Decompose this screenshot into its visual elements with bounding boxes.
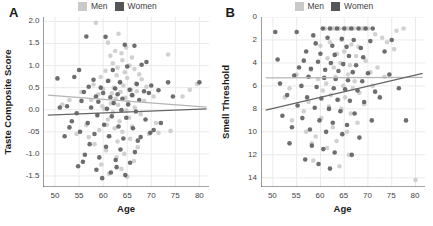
x-tick-label: 70 [355, 192, 379, 200]
panel-a-y-axis-title: Taste Composite Score [3, 50, 13, 155]
x-tick-label: 50 [260, 192, 284, 200]
legend-swatch-men [78, 2, 87, 11]
y-tick-label: -1.0 [26, 150, 40, 158]
x-tick-label: 80 [187, 192, 211, 200]
y-tick-label: 0.0 [28, 106, 39, 114]
y-tick-label: 6 [253, 82, 257, 90]
x-tick-label: 80 [403, 192, 427, 200]
panel-b: B Men Women Smell Threshold Age 02468101… [217, 0, 433, 226]
y-tick-label: -1.5 [26, 172, 40, 180]
x-tick-label: 50 [43, 192, 67, 200]
panel-b-x-axis-title: Age [261, 204, 425, 214]
x-tick-label: 65 [115, 192, 139, 200]
y-tick-label: 0 [253, 13, 257, 21]
x-tick-label: 55 [284, 192, 308, 200]
legend-label-men: Men [91, 2, 108, 11]
panel-a-plot-area [43, 17, 209, 187]
y-tick-label: 4 [253, 59, 257, 67]
x-tick-label: 75 [379, 192, 403, 200]
legend-panel-b: Men Women [295, 2, 374, 11]
legend-label-women: Women [344, 2, 373, 11]
panel-a-x-axis-title: Age [43, 204, 209, 214]
legend-item-women[interactable]: Women [115, 2, 157, 11]
panel-b-y-axis-title: Smell Threshold [220, 65, 230, 139]
legend-label-men: Men [308, 2, 325, 11]
y-tick-label: 10 [248, 128, 257, 136]
y-tick-label: 1.5 [28, 39, 39, 47]
legend-item-men[interactable]: Men [295, 2, 325, 11]
figure-container: A Men Women Taste Composite Score Age 2.… [0, 0, 433, 226]
y-tick-label: 8 [253, 105, 257, 113]
legend-panel-a: Men Women [78, 2, 157, 11]
x-tick-label: 70 [139, 192, 163, 200]
y-tick-label: 1.0 [28, 62, 39, 70]
legend-swatch-women [331, 2, 340, 11]
x-tick-label: 60 [91, 192, 115, 200]
legend-item-men[interactable]: Men [78, 2, 108, 11]
y-tick-label: 14 [248, 174, 257, 182]
legend-label-women: Women [128, 2, 157, 11]
legend-item-women[interactable]: Women [331, 2, 373, 11]
y-tick-label: 0.5 [28, 84, 39, 92]
panel-a: A Men Women Taste Composite Score Age 2.… [0, 0, 217, 226]
x-tick-label: 65 [332, 192, 356, 200]
x-tick-label: 75 [163, 192, 187, 200]
y-tick-label: 2.0 [28, 17, 39, 25]
panel-a-letter: A [9, 6, 18, 19]
panel-b-letter: B [226, 6, 235, 19]
y-tick-label: 12 [248, 151, 257, 159]
y-tick-label: -05 [28, 128, 40, 136]
x-tick-label: 60 [308, 192, 332, 200]
panel-b-plot-area [261, 17, 425, 187]
y-tick-label: 2 [253, 36, 257, 44]
legend-swatch-women [115, 2, 124, 11]
x-tick-label: 55 [67, 192, 91, 200]
legend-swatch-men [295, 2, 304, 11]
